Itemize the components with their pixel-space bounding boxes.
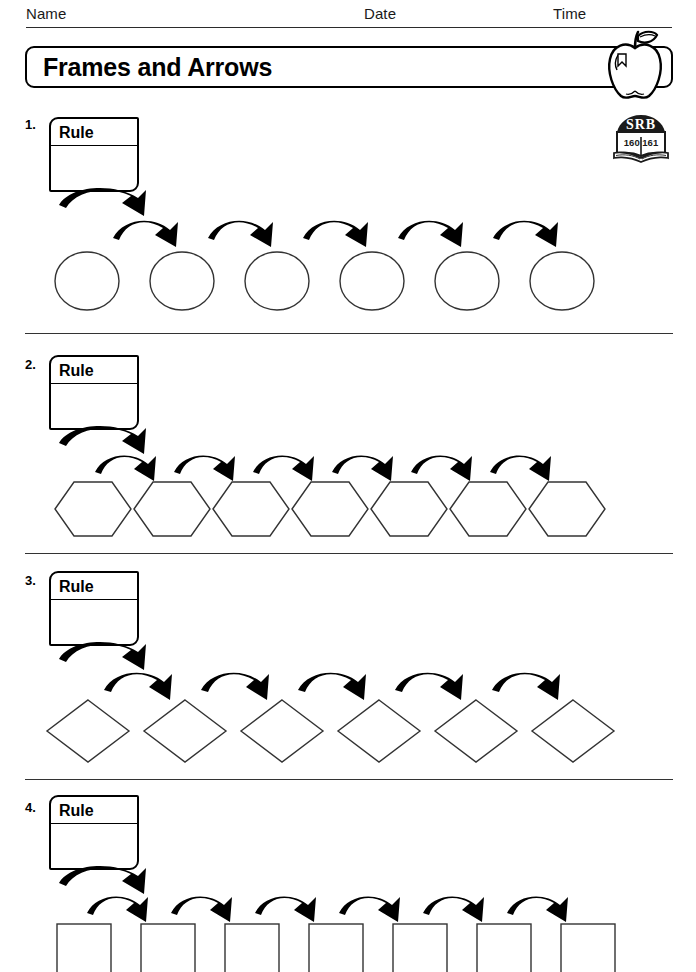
answer-shape-square (225, 924, 279, 972)
answer-shape-square (309, 924, 363, 972)
answer-shape-square (141, 924, 195, 972)
answer-shape-square (561, 924, 615, 972)
rule-arrow (59, 866, 146, 894)
answer-shape-square (477, 924, 531, 972)
shape-row (0, 0, 696, 972)
connector-arrows (87, 897, 568, 922)
answer-shapes (57, 924, 615, 972)
answer-shape-square (393, 924, 447, 972)
problem-4: 4. Rule (0, 0, 696, 192)
answer-shape-square (57, 924, 111, 972)
